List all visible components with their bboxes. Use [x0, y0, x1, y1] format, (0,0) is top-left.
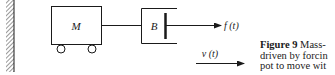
caption-figure-label: Figure 9 — [260, 40, 297, 50]
damper-label: B — [151, 20, 158, 32]
caption-line-3: pot to move wit — [260, 61, 335, 72]
wall — [6, 0, 14, 72]
force-label: f (t) — [224, 20, 239, 32]
mass-label: M — [70, 20, 81, 32]
velocity-label: v (t) — [202, 48, 219, 60]
caption-line-1: Mass- — [300, 40, 326, 50]
wheel-left — [57, 45, 65, 53]
wheels — [57, 45, 96, 53]
mass-block: M — [52, 7, 102, 45]
figure-caption: Figure 9 Mass- driven by forcin pot to m… — [260, 40, 335, 72]
wheel-right — [88, 45, 96, 53]
